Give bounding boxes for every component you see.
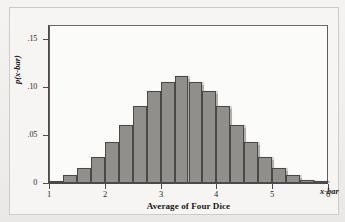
x-axis-tick-label: 5 <box>262 189 282 199</box>
histogram-bar <box>119 125 133 183</box>
histogram-bar <box>202 91 216 183</box>
y-axis-title: p(x-bar) <box>12 55 22 84</box>
histogram-bar <box>175 76 189 183</box>
histogram-bar <box>147 91 161 183</box>
x-axis-tick-label: 1 <box>39 189 59 199</box>
histogram-bar <box>161 82 175 184</box>
x-axis-line <box>49 183 328 184</box>
histogram-bar <box>189 82 203 184</box>
y-axis-tick <box>43 39 49 40</box>
histogram-bar <box>216 106 230 183</box>
histogram-bar <box>105 142 119 183</box>
histogram-plot-area <box>49 25 328 183</box>
x-axis-tick-label: 4 <box>206 189 226 199</box>
histogram-bar <box>244 142 258 183</box>
histogram-bar <box>91 157 105 183</box>
x-variable-label: x-bar <box>320 186 339 196</box>
x-axis-title: Average of Four Dice <box>49 201 328 211</box>
histogram-bar <box>272 168 286 183</box>
x-axis-tick-label: 2 <box>95 189 115 199</box>
y-axis-tick-label: .15 <box>28 34 37 43</box>
y-axis-tick-label: 0 <box>33 178 37 187</box>
histogram-bar <box>286 175 300 183</box>
y-axis-tick-label: .10 <box>28 82 37 91</box>
histogram-bar <box>63 175 77 183</box>
histogram-bar <box>133 106 147 183</box>
x-axis-tick-label: 3 <box>151 189 171 199</box>
y-axis-tick-label: .05 <box>28 130 37 139</box>
y-axis-tick <box>43 87 49 88</box>
histogram-bar <box>230 125 244 183</box>
figure-page: 0.05.10.15 123456 p(x-bar) Average of Fo… <box>0 0 345 222</box>
histogram-bar <box>258 157 272 183</box>
y-axis-tick <box>43 135 49 136</box>
y-axis-line <box>48 25 49 183</box>
histogram-bar <box>77 168 91 183</box>
